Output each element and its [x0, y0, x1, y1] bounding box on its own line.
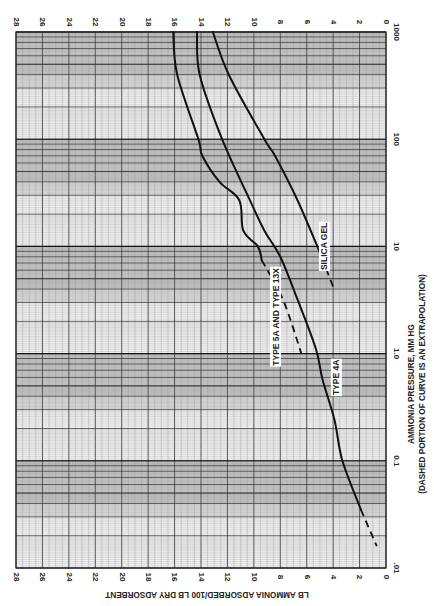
pressure-tick-label: .01 [392, 562, 401, 574]
bottom-tick-label: 20 [118, 573, 127, 582]
top-tick-label: 4 [329, 20, 338, 25]
pressure-tick-label: 10 [392, 242, 401, 251]
bottom-tick-label: 16 [170, 573, 179, 582]
top-tick-label: 6 [303, 20, 312, 25]
adsorption-isotherm-chart: SILICA GELTYPE 5A AND TYPE 13XTYPE 4A 02… [0, 0, 434, 606]
pressure-tick-label: 0.1 [392, 455, 401, 467]
top-tick-label: 28 [12, 18, 21, 27]
pressure-tick-label: 100 [392, 133, 401, 147]
bottom-tick-label: 26 [38, 573, 47, 582]
x-axis-label: AMMONIA PRESSURE, MM HG [407, 324, 416, 444]
bottom-tick-label: 4 [329, 575, 338, 580]
curve-label: TYPE 4A [331, 360, 341, 395]
top-tick-label: 20 [118, 18, 127, 27]
bottom-tick-label: 28 [12, 573, 21, 582]
top-tick-label: 14 [197, 18, 206, 27]
bottom-tick-label: 10 [250, 573, 259, 582]
y-axis-label: LB AMMONIA ADSORBED/100 LB DRY ADSORBENT [105, 590, 309, 599]
top-tick-label: 18 [144, 18, 153, 27]
bottom-tick-label: 18 [144, 573, 153, 582]
chart-canvas: SILICA GELTYPE 5A AND TYPE 13XTYPE 4A 02… [0, 0, 434, 606]
pressure-tick-label: 1000 [392, 23, 401, 41]
bottom-tick-label: 2 [355, 575, 364, 580]
top-tick-label: 2 [355, 20, 364, 25]
top-tick-label: 10 [250, 18, 259, 27]
top-tick-label: 16 [170, 18, 179, 27]
bottom-tick-label: 6 [303, 575, 312, 580]
top-tick-label: 26 [38, 18, 47, 27]
top-tick-label: 24 [65, 18, 74, 27]
pressure-tick-label: 1.0 [392, 348, 401, 360]
top-tick-label: 0 [382, 20, 391, 25]
x-axis-note: (DASHED PORTION OF CURVE IS AN EXTRAPOLA… [418, 274, 427, 494]
top-tick-label: 8 [276, 20, 285, 25]
bottom-tick-label: 0 [382, 575, 391, 580]
top-tick-label: 22 [91, 18, 100, 27]
bottom-tick-label: 12 [223, 573, 232, 582]
bottom-tick-label: 8 [276, 575, 285, 580]
top-tick-label: 12 [223, 18, 232, 27]
curve-label: SILICA GEL [319, 223, 329, 270]
curve-label: TYPE 5A AND TYPE 13X [271, 268, 281, 366]
bottom-tick-label: 14 [197, 573, 206, 582]
bottom-tick-label: 22 [91, 573, 100, 582]
bottom-tick-label: 24 [65, 573, 74, 582]
